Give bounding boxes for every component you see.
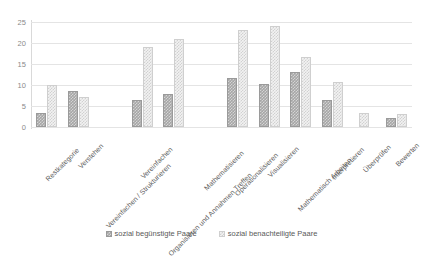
y-axis-tick-label: 5 (22, 102, 26, 111)
bar-chart: 0510152025 RestkategorieVerstehenVereinf… (0, 0, 423, 265)
bar[interactable] (227, 78, 237, 127)
category-label: Bewerten (394, 142, 420, 168)
bar[interactable] (322, 100, 332, 127)
bar[interactable] (143, 47, 153, 127)
bar[interactable] (301, 57, 311, 127)
bar[interactable] (174, 39, 184, 127)
legend-item[interactable]: sozial begünstigte Paare (106, 229, 197, 238)
bar[interactable] (36, 113, 46, 127)
bar-group (349, 22, 381, 127)
bar-group (158, 22, 190, 127)
bar[interactable] (397, 114, 407, 127)
bar-group (63, 22, 95, 127)
category-label: Restkategorie (44, 147, 80, 183)
bar-group (222, 22, 254, 127)
bar-group (95, 22, 127, 127)
gridline (31, 127, 412, 128)
bar-group (285, 22, 317, 127)
legend-swatch-icon (219, 231, 225, 237)
bar-group (31, 22, 63, 127)
bar[interactable] (79, 97, 89, 127)
bar[interactable] (359, 113, 369, 127)
bar-group (126, 22, 158, 127)
y-axis-tick-label: 20 (17, 39, 26, 48)
legend-label: sozial benachteiligte Paare (228, 229, 318, 238)
bar[interactable] (132, 100, 142, 127)
bar-group (253, 22, 285, 127)
category-label: Überprüfen (362, 144, 392, 174)
bar-group (380, 22, 412, 127)
bar[interactable] (68, 91, 78, 127)
category-label: Interpretieren (330, 146, 365, 181)
category-label: Verstehen (77, 142, 105, 170)
bar[interactable] (259, 84, 269, 127)
y-axis-tick-label: 0 (22, 123, 26, 132)
bar[interactable] (270, 26, 280, 127)
y-axis-tick-label: 25 (17, 18, 26, 27)
legend-label: sozial begünstigte Paare (115, 229, 197, 238)
bar[interactable] (163, 94, 173, 127)
bar-group (317, 22, 349, 127)
bar[interactable] (290, 72, 300, 127)
bar[interactable] (47, 85, 57, 127)
legend-item[interactable]: sozial benachteiligte Paare (219, 229, 318, 238)
bar[interactable] (238, 30, 248, 127)
legend-swatch-icon (106, 231, 112, 237)
chart-legend: sozial begünstigte Paaresozial benachtei… (0, 229, 423, 238)
y-axis-tick-label: 10 (17, 81, 26, 90)
category-label: Vereinfachen / Strukturieren (105, 162, 172, 229)
bar-groups (31, 22, 412, 127)
bar[interactable] (386, 118, 396, 127)
bar-group (190, 22, 222, 127)
bar[interactable] (333, 82, 343, 127)
y-axis-tick-label: 15 (17, 60, 26, 69)
